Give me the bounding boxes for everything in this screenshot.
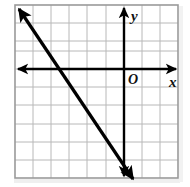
frame-shadow-bottom bbox=[14, 179, 180, 183]
x-axis-label: x bbox=[168, 74, 177, 90]
plot-area bbox=[15, 5, 178, 178]
origin-label: O bbox=[128, 72, 138, 87]
coordinate-graph-figure: y x O bbox=[0, 0, 190, 187]
frame-shadow-right bbox=[179, 6, 183, 182]
y-axis-label: y bbox=[129, 8, 138, 24]
coordinate-plane-svg: y x O bbox=[0, 0, 190, 187]
